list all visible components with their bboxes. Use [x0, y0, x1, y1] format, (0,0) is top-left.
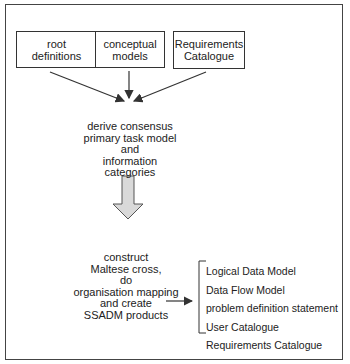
- step-derive-consensus: derive consensus primary task model and …: [78, 121, 182, 179]
- arrow-root: [50, 72, 124, 101]
- output-item: Data Flow Model: [206, 281, 338, 300]
- output-item: problem definition statement: [206, 299, 338, 318]
- output-item: User Catalogue: [206, 318, 338, 337]
- step-construct: construct Maltese cross, do organisation…: [72, 252, 180, 321]
- output-item: Requirements Catalogue: [206, 336, 338, 355]
- output-item: Logical Data Model: [206, 262, 338, 281]
- outputs-list: Logical Data Model Data Flow Model probl…: [206, 262, 338, 355]
- block-arrow-down-icon: [113, 176, 143, 219]
- arrow-requirements: [134, 72, 206, 101]
- outputs-bracket: [199, 261, 206, 333]
